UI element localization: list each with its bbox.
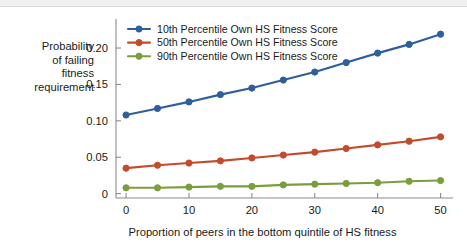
legend-marker-3 xyxy=(136,53,142,59)
data-point-marker xyxy=(217,158,223,164)
data-point-marker xyxy=(280,152,286,158)
data-point-marker xyxy=(154,105,160,111)
x-tick-label: 20 xyxy=(246,204,258,216)
data-point-marker xyxy=(375,180,381,186)
data-point-marker xyxy=(406,41,412,47)
data-point-marker xyxy=(249,183,255,189)
data-point-marker xyxy=(437,177,443,183)
data-point-marker xyxy=(343,145,349,151)
x-tick-label: 40 xyxy=(371,204,383,216)
data-point-marker xyxy=(217,92,223,98)
data-point-marker xyxy=(406,138,412,144)
data-point-marker xyxy=(186,99,192,105)
data-point-marker xyxy=(249,155,255,161)
data-point-marker xyxy=(123,112,129,118)
data-point-marker xyxy=(343,180,349,186)
x-axis-title-text: Proportion of peers in the bottom quinti… xyxy=(128,226,396,238)
x-tick-label: 30 xyxy=(309,204,321,216)
data-point-marker xyxy=(123,185,129,191)
data-point-marker xyxy=(375,142,381,148)
legend-marker-2 xyxy=(136,40,142,46)
data-point-marker xyxy=(437,134,443,140)
data-point-marker xyxy=(280,77,286,83)
data-point-marker xyxy=(375,50,381,56)
y-tick-label: 0.05 xyxy=(86,151,108,163)
data-point-marker xyxy=(249,85,255,91)
plot-area: 00.050.100.150.200102030405010th Percent… xyxy=(0,0,467,248)
data-point-marker xyxy=(123,165,129,171)
data-point-marker xyxy=(186,160,192,166)
y-tick-label: 0 xyxy=(102,188,108,200)
y-tick-label: 0.10 xyxy=(86,115,108,127)
data-point-marker xyxy=(406,178,412,184)
legend-label-3: 90th Percentile Own HS Fitness Score xyxy=(157,50,338,62)
legend-marker-1 xyxy=(136,26,142,32)
data-point-marker xyxy=(217,183,223,189)
data-point-marker xyxy=(280,182,286,188)
data-point-marker xyxy=(186,184,192,190)
data-point-marker xyxy=(437,31,443,37)
x-tick-label: 0 xyxy=(123,204,129,216)
x-axis-title: Proportion of peers in the bottom quinti… xyxy=(0,226,467,238)
legend-label-1: 10th Percentile Own HS Fitness Score xyxy=(157,23,338,35)
x-tick-label: 10 xyxy=(183,204,195,216)
data-point-marker xyxy=(312,149,318,155)
data-point-marker xyxy=(312,181,318,187)
chart-figure: Probability of failing fitness requireme… xyxy=(0,0,467,248)
data-point-marker xyxy=(154,185,160,191)
data-point-marker xyxy=(312,69,318,75)
y-tick-label: 0.20 xyxy=(86,42,108,54)
data-point-marker xyxy=(343,59,349,65)
x-tick-label: 50 xyxy=(434,204,446,216)
legend-label-2: 50th Percentile Own HS Fitness Score xyxy=(157,36,338,48)
y-tick-label: 0.15 xyxy=(86,78,108,90)
data-point-marker xyxy=(154,162,160,168)
